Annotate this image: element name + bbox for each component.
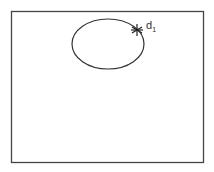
- label-subscript: 1: [152, 26, 156, 33]
- frame-border: [12, 12, 204, 163]
- point-label: d1: [146, 19, 156, 33]
- ellipse-curve: [72, 19, 144, 69]
- diagram-canvas: [0, 0, 214, 172]
